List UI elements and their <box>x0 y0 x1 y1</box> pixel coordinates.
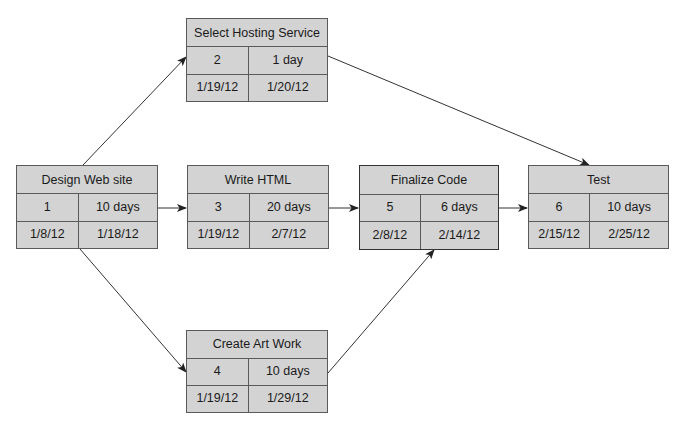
node-start-date: 1/8/12 <box>17 221 79 248</box>
node-start-date: 1/19/12 <box>187 385 249 412</box>
node-title: Finalize Code <box>360 166 498 195</box>
node-row-dates: 1/8/12 1/18/12 <box>17 221 157 248</box>
node-duration: 10 days <box>590 193 668 220</box>
network-diagram: Design Web site 1 10 days 1/8/12 1/18/12… <box>0 0 685 427</box>
node-finish-date: 2/14/12 <box>421 221 498 249</box>
node-write-html: Write HTML 3 20 days 1/19/12 2/7/12 <box>187 165 329 249</box>
node-start-date: 2/15/12 <box>529 221 590 248</box>
node-number: 6 <box>529 193 590 220</box>
node-number: 5 <box>360 194 421 222</box>
node-duration: 20 days <box>250 193 328 220</box>
node-start-date: 1/19/12 <box>187 74 249 101</box>
node-row-dates: 2/15/12 2/25/12 <box>529 221 668 248</box>
node-title: Create Art Work <box>187 331 327 359</box>
node-finish-date: 2/25/12 <box>590 221 668 248</box>
node-row-dates: 1/19/12 2/7/12 <box>188 221 328 248</box>
node-row-dates: 2/8/12 2/14/12 <box>360 221 498 249</box>
node-number: 4 <box>187 358 249 385</box>
node-number: 1 <box>17 193 79 220</box>
node-duration: 10 days <box>249 358 327 385</box>
node-row-id-duration: 3 20 days <box>188 193 328 221</box>
node-finish-date: 2/7/12 <box>250 221 328 248</box>
node-finish-date: 1/29/12 <box>249 385 327 412</box>
node-finalize-code: Finalize Code 5 6 days 2/8/12 2/14/12 <box>359 165 499 250</box>
node-duration: 6 days <box>421 194 498 222</box>
node-title: Select Hosting Service <box>187 19 327 47</box>
node-create-art-work: Create Art Work 4 10 days 1/19/12 1/29/1… <box>186 330 328 413</box>
node-row-dates: 1/19/12 1/20/12 <box>187 74 327 101</box>
arrow-n4-to-n5 <box>328 250 434 373</box>
node-test: Test 6 10 days 2/15/12 2/25/12 <box>528 165 669 249</box>
node-design-web-site: Design Web site 1 10 days 1/8/12 1/18/12 <box>16 165 158 249</box>
node-number: 3 <box>188 193 250 220</box>
node-row-id-duration: 4 10 days <box>187 358 327 386</box>
node-finish-date: 1/18/12 <box>79 221 157 248</box>
arrow-n2-to-n6 <box>328 56 589 165</box>
node-title: Design Web site <box>17 166 157 194</box>
node-duration: 1 day <box>249 46 327 73</box>
arrow-n1-to-n2 <box>83 57 186 165</box>
arrow-n1-to-n4 <box>80 249 186 372</box>
node-row-id-duration: 1 10 days <box>17 193 157 221</box>
node-select-hosting-service: Select Hosting Service 2 1 day 1/19/12 1… <box>186 18 328 102</box>
node-title: Test <box>529 166 668 194</box>
node-duration: 10 days <box>79 193 157 220</box>
node-row-id-duration: 6 10 days <box>529 193 668 221</box>
node-title: Write HTML <box>188 166 328 194</box>
node-finish-date: 1/20/12 <box>249 74 327 101</box>
node-row-id-duration: 2 1 day <box>187 46 327 74</box>
node-row-id-duration: 5 6 days <box>360 194 498 223</box>
node-start-date: 2/8/12 <box>360 221 421 249</box>
node-number: 2 <box>187 46 249 73</box>
node-start-date: 1/19/12 <box>188 221 250 248</box>
node-row-dates: 1/19/12 1/29/12 <box>187 385 327 412</box>
